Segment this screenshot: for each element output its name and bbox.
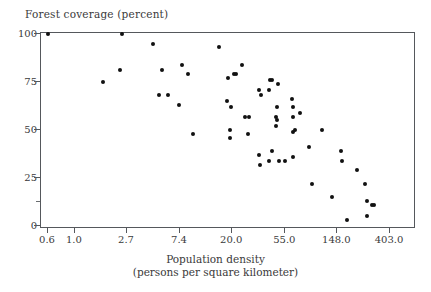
data-point [157, 93, 161, 97]
x-tick-mark [126, 228, 127, 233]
data-point [365, 214, 369, 218]
data-point [267, 159, 271, 163]
data-point [290, 97, 294, 101]
x-tick-label: 55.0 [264, 234, 304, 245]
data-point [283, 159, 287, 163]
x-tick-label: 7.4 [159, 234, 199, 245]
data-point [259, 93, 263, 97]
x-tick-mark [47, 228, 48, 233]
data-point [293, 128, 297, 132]
data-point [330, 195, 334, 199]
data-point [257, 88, 261, 92]
data-point [276, 82, 280, 86]
x-tick-mark [231, 228, 232, 233]
data-point [307, 145, 311, 149]
data-point [355, 168, 359, 172]
x-tick-label: 20.0 [211, 234, 251, 245]
y-tick-label: 0 [9, 220, 37, 231]
data-point [226, 76, 230, 80]
data-point [340, 159, 344, 163]
x-tick-mark [389, 228, 390, 233]
data-point [234, 72, 238, 76]
data-point [160, 68, 164, 72]
data-point [217, 45, 221, 49]
data-point [177, 103, 181, 107]
data-point [258, 163, 262, 167]
data-point [225, 99, 229, 103]
data-point [291, 155, 295, 159]
y-axis-title: Forest coverage (percent) [25, 8, 168, 20]
data-point [101, 80, 105, 84]
data-point [298, 111, 302, 115]
data-point [191, 132, 195, 136]
x-tick-label: 2.7 [106, 234, 146, 245]
data-point [275, 105, 279, 109]
data-point [339, 149, 343, 153]
x-tick-mark [284, 228, 285, 233]
data-point [291, 115, 295, 119]
data-point [291, 105, 295, 109]
data-point [277, 159, 281, 163]
data-point [320, 128, 324, 132]
x-tick-mark [336, 228, 337, 233]
data-point [275, 118, 279, 122]
data-point [310, 182, 314, 186]
data-point [257, 153, 261, 157]
x-tick-label: 1.0 [54, 234, 94, 245]
x-tick-mark [74, 228, 75, 233]
data-point [240, 63, 244, 67]
data-point [270, 149, 274, 153]
data-point [345, 218, 349, 222]
data-point [247, 115, 251, 119]
data-point [270, 78, 274, 82]
x-axis-title-line2: (persons per square kilometer) [0, 266, 431, 279]
x-tick-label: 148.0 [316, 234, 356, 245]
x-tick-label: 403.0 [369, 234, 409, 245]
data-point [229, 105, 233, 109]
data-point [246, 132, 250, 136]
data-point [274, 124, 278, 128]
data-point [363, 182, 367, 186]
x-axis-title: Population density (persons per square k… [0, 253, 431, 279]
data-point [166, 93, 170, 97]
y-tick-label: 50 [9, 124, 37, 135]
data-point [228, 128, 232, 132]
plot-area [40, 32, 415, 228]
data-point [180, 63, 184, 67]
data-point [267, 88, 271, 92]
data-point [372, 203, 376, 207]
data-point [46, 32, 50, 36]
data-point [186, 72, 190, 76]
y-tick-label: 75 [9, 76, 37, 87]
data-point [120, 32, 124, 36]
x-tick-mark [179, 228, 180, 233]
data-point [118, 68, 122, 72]
data-points-layer [41, 33, 414, 227]
scatter-plot-figure: Forest coverage (percent) 0255075100 0.6… [0, 0, 431, 292]
data-point [228, 136, 232, 140]
y-tick-label: 100 [9, 28, 37, 39]
data-point [365, 199, 369, 203]
data-point [151, 42, 155, 46]
x-axis-title-line1: Population density [0, 253, 431, 266]
y-tick-label: 25 [9, 172, 37, 183]
